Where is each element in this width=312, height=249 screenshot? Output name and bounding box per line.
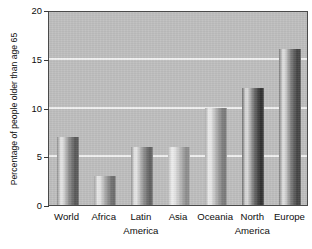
bar-fill — [279, 49, 301, 205]
y-tick-label-5: 5 — [2, 151, 42, 162]
y-tick-mark-15 — [44, 60, 49, 61]
y-tick-mark-10 — [44, 109, 49, 110]
bar-world — [57, 137, 79, 205]
plot-area — [48, 11, 308, 206]
bar-africa — [94, 176, 116, 205]
y-tick-mark-5 — [44, 157, 49, 158]
chart-figure: Percentage of people older than age 65 W… — [0, 0, 312, 249]
bar-fill — [168, 147, 190, 206]
gridline-10 — [49, 107, 307, 109]
bar-north-america — [242, 88, 264, 205]
bar-fill — [57, 137, 79, 205]
x-tick-label-north-america-line2: America — [212, 225, 292, 236]
y-tick-label-10: 10 — [2, 103, 42, 114]
bar-oceania — [205, 108, 227, 206]
gridline-15 — [49, 58, 307, 60]
bar-fill — [94, 176, 116, 205]
y-tick-label-15: 15 — [2, 54, 42, 65]
x-tick-label-latin-america-line2: America — [101, 225, 181, 236]
bar-asia — [168, 147, 190, 206]
y-tick-label-20: 20 — [2, 5, 42, 16]
bar-fill — [205, 108, 227, 206]
bar-fill — [242, 88, 264, 205]
y-tick-mark-20 — [44, 11, 49, 12]
y-tick-mark-0 — [44, 206, 49, 207]
bar-latin-america — [131, 147, 153, 206]
bar-fill — [131, 147, 153, 206]
y-tick-label-0: 0 — [2, 200, 42, 211]
x-tick-label-europe: Europe — [249, 211, 312, 222]
bar-europe — [279, 49, 301, 205]
